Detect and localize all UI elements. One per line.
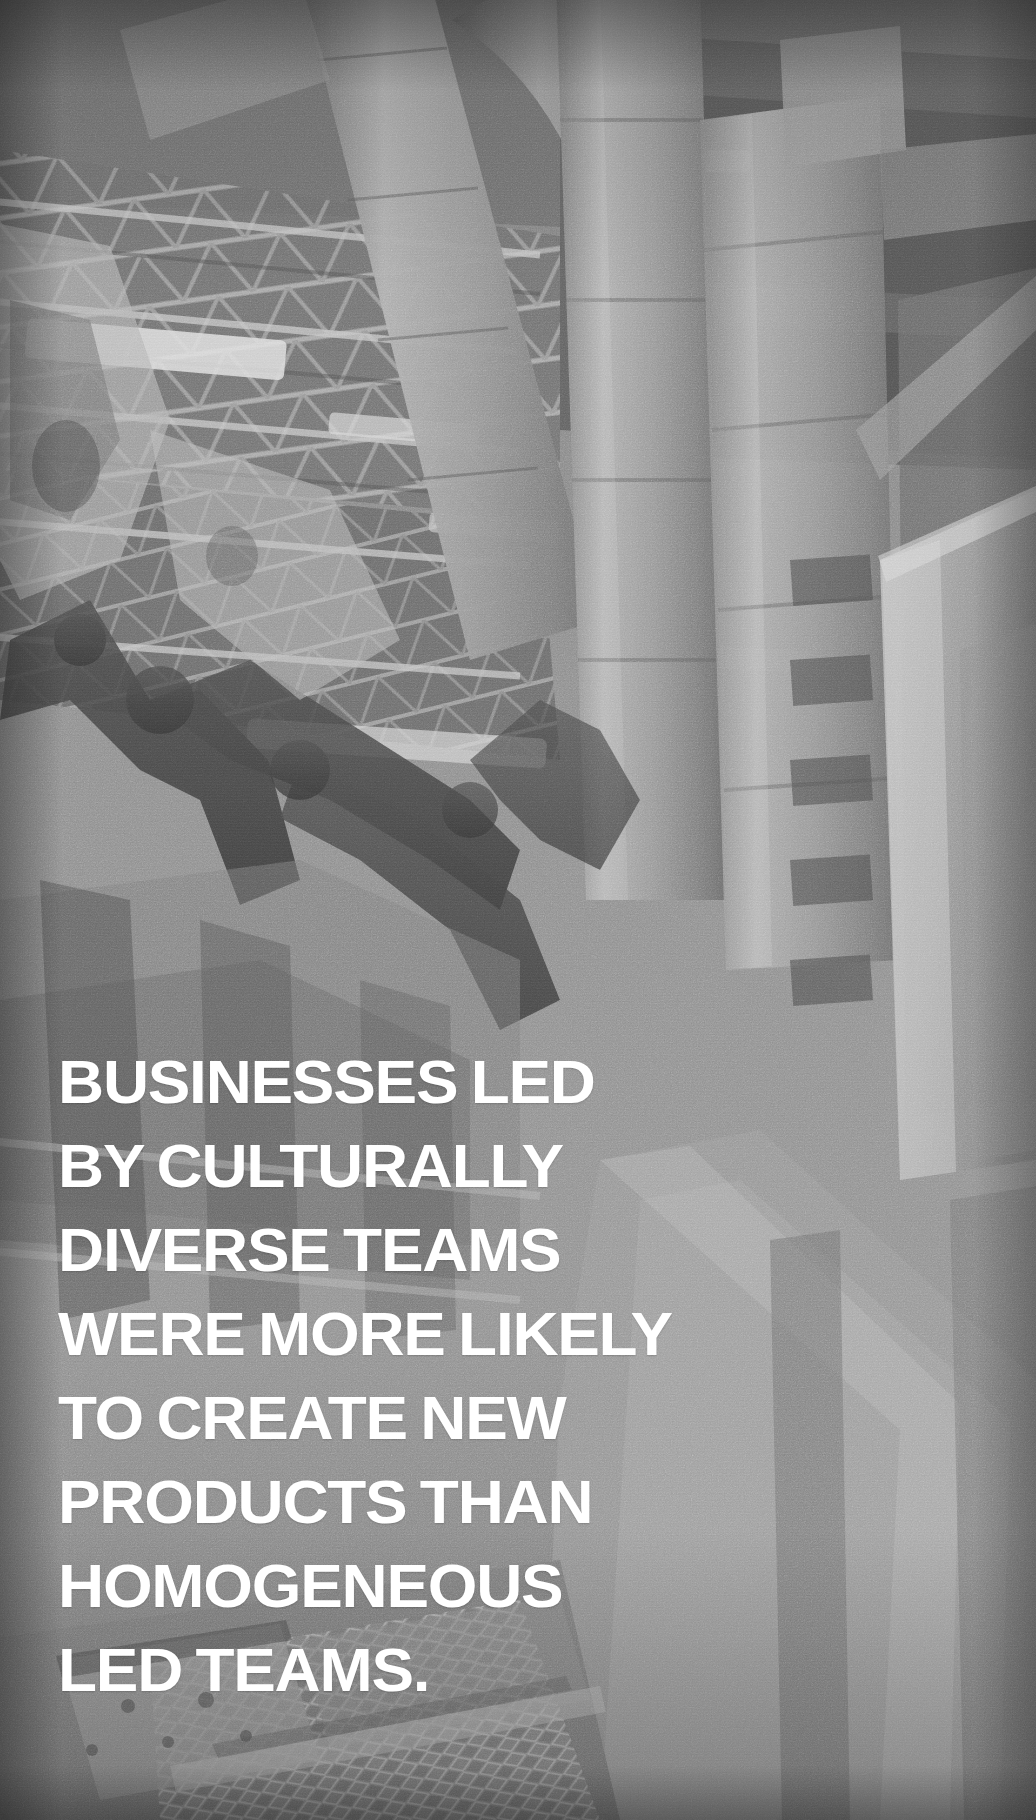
quote-line: HOMOGENEOUS bbox=[58, 1544, 964, 1628]
quote-line: DIVERSE TEAMS bbox=[58, 1208, 964, 1292]
quote-poster: BUSINESSES LED BY CULTURALLY DIVERSE TEA… bbox=[0, 0, 1036, 1820]
quote-line: WERE MORE LIKELY bbox=[58, 1292, 964, 1376]
quote-text-block: BUSINESSES LED BY CULTURALLY DIVERSE TEA… bbox=[58, 1040, 938, 1712]
quote-line: PRODUCTS THAN bbox=[58, 1460, 964, 1544]
quote-line: TO CREATE NEW bbox=[58, 1376, 964, 1460]
quote-line: BY CULTURALLY bbox=[58, 1124, 964, 1208]
quote-line: LED TEAMS. bbox=[58, 1628, 964, 1712]
quote-line: BUSINESSES LED bbox=[58, 1040, 964, 1124]
